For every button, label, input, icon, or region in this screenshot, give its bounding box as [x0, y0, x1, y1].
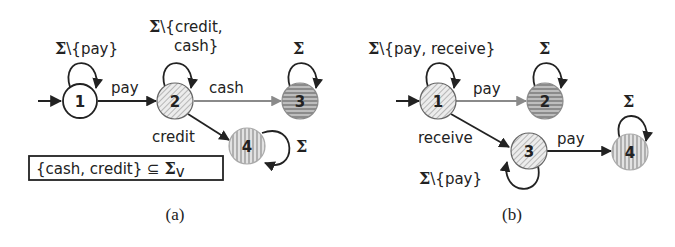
state-a-4: 4: [229, 128, 265, 164]
state-a-1: 1: [63, 84, 97, 118]
state-a-2: 2: [157, 83, 193, 119]
loop-a-1-label: Σ\{pay}: [55, 39, 118, 58]
automata-figure: 1 2 3 4 Σ\{pay} pay Σ\{credit, cash} cas…: [0, 0, 675, 247]
edge-a-2-3-label: cash: [209, 79, 244, 97]
edge-a-2-4-label: credit: [152, 128, 195, 146]
panel-b: 1 2 3 4 Σ\{pay, receive} pay receive Σ Σ…: [368, 39, 648, 224]
edge-b-3-4-label: pay: [557, 130, 585, 148]
state-b-3: 3: [511, 133, 547, 169]
edge-a-1-2-label: pay: [111, 79, 139, 97]
state-b-4: 4: [612, 134, 648, 170]
loop-a-4: [262, 131, 289, 165]
svg-text:3: 3: [524, 143, 534, 161]
state-b-1: 1: [420, 83, 456, 119]
svg-text:3: 3: [295, 93, 305, 111]
state-a-3: 3: [282, 83, 318, 119]
caption-b: (b): [502, 205, 522, 224]
state-b-2: 2: [527, 83, 563, 119]
loop-b-2-label: Σ: [539, 39, 550, 58]
verifiable-events-box: {cash, credit} ⊆ Σv: [29, 156, 223, 181]
loop-b-1-label: Σ\{pay, receive}: [368, 39, 495, 58]
panel-a: 1 2 3 4 Σ\{pay} pay Σ\{credit, cash} cas…: [29, 17, 318, 224]
loop-a-2-label-line2: cash}: [174, 37, 218, 55]
svg-text:1: 1: [433, 93, 443, 111]
loop-a-3-label: Σ: [293, 39, 304, 58]
svg-text:2: 2: [170, 93, 180, 111]
loop-a-4-label: Σ: [296, 137, 307, 156]
loop-b-3-label: Σ\{pay}: [419, 169, 482, 188]
loop-b-4-label: Σ: [623, 92, 634, 111]
svg-text:4: 4: [625, 144, 635, 162]
svg-text:2: 2: [540, 93, 550, 111]
caption-a: (a): [166, 205, 185, 224]
edge-b-1-2-label: pay: [473, 80, 501, 98]
svg-text:4: 4: [242, 138, 252, 156]
svg-text:{cash, credit} ⊆ Σv: {cash, credit} ⊆ Σv: [36, 159, 185, 181]
svg-text:1: 1: [75, 93, 85, 111]
loop-a-2-label-line1: Σ\{credit,: [149, 17, 223, 36]
edge-b-1-3-label: receive: [418, 129, 473, 147]
